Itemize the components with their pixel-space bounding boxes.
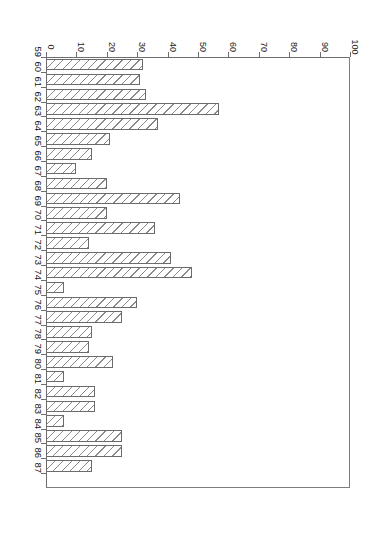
category-tick-label: 75	[33, 284, 44, 295]
plot-border-bottom	[46, 487, 350, 488]
category-tick-label: 59	[33, 46, 44, 57]
bar	[46, 267, 192, 279]
category-tick-label: 81	[33, 373, 44, 384]
bar	[46, 178, 107, 190]
bar	[46, 386, 95, 398]
category-tick-label: 78	[33, 329, 44, 340]
value-tick-label: 30	[137, 42, 147, 52]
category-tick-label: 72	[33, 240, 44, 251]
value-tick	[137, 52, 138, 57]
bar	[46, 415, 64, 427]
category-tick-label: 68	[33, 180, 44, 191]
value-tick	[168, 52, 169, 57]
category-tick-label: 83	[33, 403, 44, 414]
bar	[46, 297, 137, 309]
category-tick-label: 67	[33, 165, 44, 176]
bar	[46, 371, 64, 383]
bar	[46, 118, 158, 130]
bar	[46, 163, 76, 175]
bar	[46, 326, 92, 338]
bar	[46, 341, 89, 353]
category-tick-label: 86	[33, 448, 44, 459]
bar	[46, 89, 146, 101]
category-tick-label: 79	[33, 344, 44, 355]
value-tick	[76, 52, 77, 57]
category-tick-label: 62	[33, 91, 44, 102]
bar	[46, 103, 219, 115]
category-tick-label: 63	[33, 106, 44, 117]
value-tick-label: 100	[350, 39, 360, 54]
value-tick-label: 10	[76, 42, 86, 52]
bar	[46, 133, 110, 145]
bar	[46, 74, 140, 86]
value-tick-label: 40	[168, 42, 178, 52]
value-tick	[259, 52, 260, 57]
category-tick-label: 60	[33, 61, 44, 72]
bar	[46, 445, 122, 457]
value-tick	[107, 52, 108, 57]
bar	[46, 356, 113, 368]
value-tick-label: 90	[320, 42, 330, 52]
category-tick-label: 66	[33, 150, 44, 161]
category-tick-label: 84	[33, 418, 44, 429]
bar	[46, 148, 92, 160]
bar	[46, 59, 143, 71]
category-tick-label: 71	[33, 225, 44, 236]
category-tick-label: 64	[33, 121, 44, 132]
plot-border-right	[349, 57, 350, 488]
category-tick-label: 80	[33, 359, 44, 370]
value-tick	[320, 52, 321, 57]
bar	[46, 460, 92, 472]
category-tick-label: 61	[33, 76, 44, 87]
bar	[46, 311, 122, 323]
bar	[46, 252, 171, 264]
value-tick-label: 60	[228, 42, 238, 52]
category-tick-label: 70	[33, 210, 44, 221]
value-tick-label: 20	[107, 42, 117, 52]
category-tick-label: 69	[33, 195, 44, 206]
value-tick	[46, 52, 47, 57]
category-tick-label: 87	[33, 463, 44, 474]
category-tick-label: 65	[33, 136, 44, 147]
bar	[46, 207, 107, 219]
bar	[46, 237, 89, 249]
bar	[46, 193, 180, 205]
category-tick	[41, 473, 46, 474]
value-tick-label: 80	[289, 42, 299, 52]
value-tick	[289, 52, 290, 57]
category-tick-label: 77	[33, 314, 44, 325]
category-tick-label: 74	[33, 269, 44, 280]
value-tick	[228, 52, 229, 57]
value-tick-label: 0	[46, 44, 56, 49]
value-tick-label: 70	[259, 42, 269, 52]
value-tick-label: 50	[198, 42, 208, 52]
bar	[46, 282, 64, 294]
category-tick-label: 76	[33, 299, 44, 310]
category-tick-label: 82	[33, 388, 44, 399]
bar	[46, 430, 122, 442]
bar	[46, 222, 155, 234]
bar	[46, 401, 95, 413]
value-tick	[198, 52, 199, 57]
category-tick-label: 73	[33, 254, 44, 265]
plot-area: 0102030405060708090100596061626364656667…	[46, 57, 350, 488]
bar-chart: 0102030405060708090100596061626364656667…	[0, 0, 370, 547]
category-tick-label: 85	[33, 433, 44, 444]
